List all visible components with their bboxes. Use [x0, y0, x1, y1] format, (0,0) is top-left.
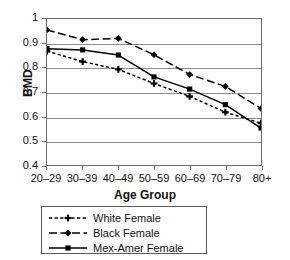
data-point-marker	[47, 27, 50, 34]
data-point-marker	[115, 66, 122, 73]
data-point-marker	[186, 93, 193, 100]
data-point-marker	[222, 109, 229, 116]
y-axis-tick-label: 0.4	[8, 160, 38, 171]
data-point-marker	[79, 36, 86, 43]
x-axis-tick-mark	[190, 166, 191, 170]
legend-item-label: Mex-Amer Female	[93, 242, 183, 254]
data-point-marker	[151, 74, 156, 79]
data-point-marker	[151, 80, 158, 87]
y-axis-tick-label: 0.5	[8, 135, 38, 146]
series-line	[47, 30, 261, 109]
y-axis-tick-label: 1	[8, 12, 38, 23]
legend-swatch-plus-icon	[48, 212, 88, 224]
y-axis-tick-label: 0.8	[8, 61, 38, 72]
legend-item[interactable]: Mex-Amer Female	[48, 241, 206, 255]
data-point-marker	[116, 52, 121, 57]
data-point-marker	[47, 46, 50, 51]
x-axis-tick-mark	[154, 166, 155, 170]
x-axis-tick-label: 80+	[239, 172, 285, 184]
data-point-marker	[151, 51, 158, 58]
legend-item-label: Black Female	[93, 227, 160, 239]
y-axis-tick-label: 0.7	[8, 86, 38, 97]
legend-swatch-square-icon	[48, 242, 88, 254]
series-2	[47, 27, 261, 112]
x-axis-tick-mark	[46, 166, 47, 170]
legend-item[interactable]: Black Female	[48, 226, 206, 240]
x-axis-tick-mark	[118, 166, 119, 170]
chart-legend: White FemaleBlack FemaleMex-Amer Female	[41, 206, 207, 254]
series-line	[47, 51, 261, 123]
data-point-marker	[222, 83, 229, 90]
bmd-line-chart-figure: BMD 0.40.50.60.70.80.91 20–2930–3940–495…	[0, 0, 290, 260]
x-axis-tick-mark	[262, 166, 263, 170]
legend-item-label: White Female	[93, 212, 161, 224]
series-1	[47, 48, 261, 127]
plot-area	[46, 18, 262, 166]
data-point-marker	[187, 87, 192, 92]
data-point-marker	[186, 71, 193, 78]
x-axis-title: Age Group	[0, 188, 290, 202]
series-layer	[47, 19, 261, 165]
legend-swatch-diamond-icon	[48, 227, 88, 239]
y-axis-tick-label: 0.6	[8, 111, 38, 122]
legend-item[interactable]: White Female	[48, 211, 206, 225]
x-axis-tick-mark	[226, 166, 227, 170]
data-point-marker	[258, 125, 261, 130]
data-point-marker	[115, 35, 122, 42]
data-point-marker	[80, 47, 85, 52]
x-axis-tick-mark	[82, 166, 83, 170]
data-point-marker	[223, 102, 228, 107]
y-axis-tick-label: 0.9	[8, 37, 38, 48]
data-point-marker	[79, 58, 86, 65]
